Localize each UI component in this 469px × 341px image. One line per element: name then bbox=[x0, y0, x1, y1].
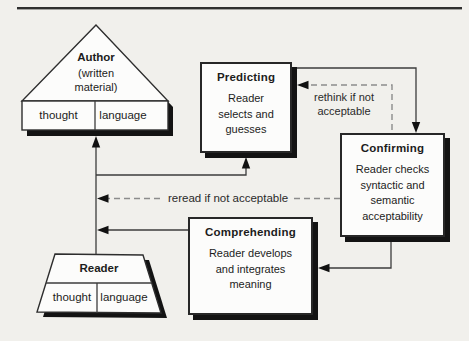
reread-label: reread if not acceptable bbox=[163, 191, 293, 206]
top-rule bbox=[17, 7, 462, 9]
reading-model-diagram: Author (written material) thought langua… bbox=[0, 0, 469, 341]
rethink-label: rethink if not acceptable bbox=[284, 90, 404, 118]
confirming-box: Confirming Reader checks syntactic and s… bbox=[340, 133, 445, 237]
predicting-box: Predicting Reader selects and guesses bbox=[200, 62, 292, 153]
arrowhead-rethink bbox=[297, 81, 309, 89]
arrowhead-to-confirming bbox=[412, 122, 420, 133]
confirming-body: Reader checks syntactic and semantic acc… bbox=[342, 162, 443, 224]
arrowhead-to-predicting bbox=[242, 157, 250, 169]
arrowhead-reread bbox=[97, 194, 109, 202]
reader-cell-language: language bbox=[89, 291, 159, 303]
arrowhead-comprehending-feedback bbox=[97, 226, 109, 234]
comprehending-title: Comprehending bbox=[190, 226, 311, 238]
arrowhead-to-comprehending bbox=[318, 264, 330, 272]
author-subtitle: (written material) bbox=[46, 66, 146, 94]
arrow-to-predicting bbox=[96, 166, 246, 175]
author-cell-language: language bbox=[88, 109, 158, 121]
confirming-title: Confirming bbox=[342, 142, 443, 154]
comprehending-box: Comprehending Reader develops and integr… bbox=[188, 217, 313, 315]
predicting-title: Predicting bbox=[202, 71, 290, 83]
predicting-body: Reader selects and guesses bbox=[202, 91, 290, 138]
comprehending-body: Reader develops and integrates meaning bbox=[190, 246, 311, 293]
reader-title: Reader bbox=[64, 262, 134, 274]
author-cell-thought: thought bbox=[28, 109, 89, 121]
arrow-confirming-to-comprehending bbox=[327, 242, 391, 268]
arrowhead-to-author bbox=[92, 136, 100, 148]
author-title: Author bbox=[56, 51, 136, 63]
